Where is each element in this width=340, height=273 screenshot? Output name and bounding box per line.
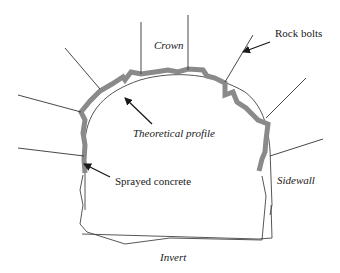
theoretical-profile-arrow (125, 98, 152, 124)
invert-line (82, 205, 272, 239)
rock-bolts-arrow (243, 42, 270, 52)
sidewall-label: Sidewall (277, 175, 315, 186)
theoretical-profile-line (85, 75, 272, 215)
rock-bolt (270, 139, 323, 156)
invert-label: Invert (160, 252, 186, 263)
rock-bolt (18, 148, 84, 156)
crown-label: Crown (154, 40, 184, 51)
rock-bolts-label: Rock bolts (275, 28, 322, 39)
rock-bolt (18, 95, 81, 112)
rock-bolt (225, 35, 253, 82)
theoretical-profile-label: Theoretical profile (133, 128, 215, 139)
sprayed-concrete-label: Sprayed concrete (115, 176, 191, 187)
rock-bolt (65, 48, 100, 89)
sprayed-concrete-line (81, 69, 268, 173)
rock-bolt (266, 78, 306, 118)
sprayed-concrete-arrow (84, 164, 110, 177)
